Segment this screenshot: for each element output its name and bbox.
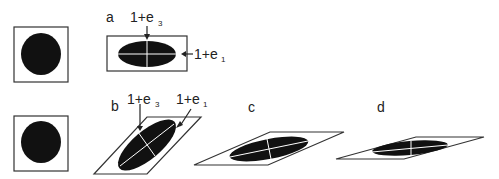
panel-c: c	[194, 99, 344, 166]
svg-text:3: 3	[158, 19, 163, 28]
svg-text:1: 1	[203, 100, 208, 109]
panel-a: a 1+e 3 1+e 1	[106, 9, 226, 71]
panel-a-e1-label: 1+e	[194, 46, 218, 62]
reference-circle-bottom	[14, 116, 68, 171]
svg-text:3: 3	[155, 100, 160, 109]
panel-a-label: a	[106, 9, 114, 25]
strain-ellipse-diagram: a 1+e 3 1+e 1 b 1+e 3 1+e 1 c	[0, 0, 499, 179]
panel-b-e1-label: 1+e	[176, 91, 200, 107]
panel-a-e3-label: 1+e	[130, 9, 154, 25]
panel-b-label: b	[111, 98, 119, 114]
panel-d: d	[336, 99, 484, 159]
panel-c-label: c	[248, 99, 255, 115]
panel-d-label: d	[377, 99, 385, 115]
panel-b-e3-label: 1+e	[127, 91, 151, 107]
svg-text:1: 1	[221, 55, 226, 64]
reference-circle-top	[14, 27, 68, 82]
panel-b: b 1+e 3 1+e 1	[94, 91, 208, 179]
